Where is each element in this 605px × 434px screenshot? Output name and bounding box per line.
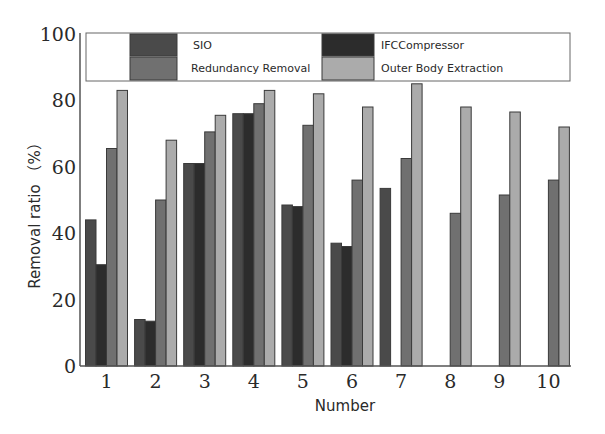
y-tick-label: 80	[52, 89, 76, 111]
x-tick-labels: 12345678910	[100, 370, 560, 392]
legend-swatch-outer-body-extraction	[322, 57, 374, 80]
y-tick-label: 60	[52, 156, 76, 178]
bar-outer-body-extraction-10	[559, 127, 570, 366]
legend-swatch-redundancy-removal	[130, 57, 177, 80]
bar-redundancy-removal-7	[401, 159, 412, 367]
bar-outer-body-extraction-6	[363, 107, 374, 366]
legend-label-outer-body-extraction: Outer Body Extraction	[381, 62, 503, 75]
y-tick-label: 40	[52, 222, 76, 244]
y-axis-title: Removal ratio （%）	[26, 135, 44, 288]
legend-swatch-sio	[130, 34, 177, 56]
y-tick-label: 0	[64, 355, 76, 377]
bar-redundancy-removal-8	[450, 213, 461, 366]
bar-outer-body-extraction-3	[215, 115, 226, 366]
bar-sio-2	[135, 320, 146, 367]
y-tick-label: 100	[40, 23, 76, 45]
axes	[80, 33, 571, 366]
bar-redundancy-removal-4	[254, 104, 264, 366]
bar-redundancy-removal-5	[303, 125, 314, 366]
bar-sio-7	[380, 188, 391, 366]
legend-label-redundancy-removal: Redundancy Removal	[191, 62, 310, 75]
bar-outer-body-extraction-9	[510, 112, 521, 366]
legend-label-sio: SIO	[193, 39, 212, 52]
x-tick-label: 5	[297, 370, 309, 392]
x-tick-label: 4	[248, 370, 260, 392]
x-tick-label: 8	[444, 370, 456, 392]
bar-series-group	[86, 84, 570, 366]
bar-outer-body-extraction-2	[166, 140, 177, 366]
legend-label-ifccompressor: IFCCompressor	[381, 39, 465, 52]
bar-ifccompressor-3	[194, 164, 205, 367]
x-tick-label: 10	[536, 370, 560, 392]
bar-ifccompressor-5	[292, 207, 303, 366]
x-tick-label: 3	[199, 370, 211, 392]
y-tick-label: 20	[52, 289, 76, 311]
bar-redundancy-removal-3	[205, 132, 216, 366]
bar-outer-body-extraction-8	[461, 107, 472, 366]
x-tick-label: 7	[395, 370, 407, 392]
x-tick-label: 6	[346, 370, 358, 392]
bar-sio-4	[233, 114, 244, 366]
bar-redundancy-removal-1	[107, 149, 118, 367]
bar-ifccompressor-1	[96, 265, 107, 366]
bar-sio-1	[86, 220, 97, 366]
bar-sio-6	[331, 243, 342, 366]
bar-outer-body-extraction-1	[117, 90, 128, 366]
bar-ifccompressor-6	[342, 247, 353, 367]
bar-sio-5	[282, 205, 293, 366]
legend-swatch-ifccompressor	[322, 34, 374, 56]
x-tick-label: 1	[100, 370, 112, 392]
x-axis-title: Number	[315, 397, 376, 415]
bar-outer-body-extraction-4	[264, 90, 275, 366]
bar-chart: 020406080100 12345678910 Number Removal …	[0, 0, 605, 434]
bar-redundancy-removal-10	[548, 180, 559, 366]
bar-ifccompressor-2	[145, 321, 156, 366]
bar-ifccompressor-4	[243, 114, 254, 366]
bar-redundancy-removal-9	[499, 195, 510, 366]
legend: SIO Redundancy Removal IFCCompressor Out…	[86, 33, 570, 81]
y-tick-labels: 020406080100	[40, 23, 76, 377]
x-tick-label: 2	[150, 370, 162, 392]
x-tick-label: 9	[493, 370, 505, 392]
bar-outer-body-extraction-5	[313, 94, 324, 366]
bar-redundancy-removal-2	[156, 200, 167, 366]
bar-redundancy-removal-6	[352, 180, 363, 366]
bar-outer-body-extraction-7	[412, 84, 423, 366]
bar-sio-3	[184, 164, 195, 367]
